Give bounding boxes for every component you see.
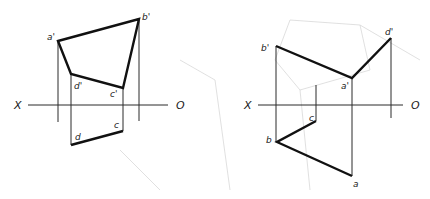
- label-d-prime: d': [385, 27, 393, 37]
- left-axis-o-label: O: [176, 99, 185, 112]
- projection-diagram: X O a' b' d' c' d c X O b' a' d' c: [0, 0, 430, 199]
- right-axis-o-label: O: [411, 99, 420, 112]
- label-a-prime: a': [341, 81, 349, 91]
- right-top-view-polyline: [277, 121, 352, 176]
- label-c-prime: c': [110, 89, 117, 99]
- label-b-prime: b': [261, 43, 269, 53]
- label-d-prime: d': [74, 81, 82, 91]
- label-c: c: [114, 120, 119, 130]
- right-axis-x-label: X: [243, 99, 252, 112]
- right-front-view-polyline: [276, 38, 391, 78]
- label-a-prime: a': [47, 32, 55, 42]
- label-b-prime: b': [142, 12, 150, 22]
- label-c: c: [309, 113, 314, 123]
- left-diagram: X O a' b' d' c' d c: [13, 12, 185, 145]
- left-axis-x-label: X: [13, 99, 22, 112]
- label-b: b: [266, 135, 272, 145]
- label-d: d: [75, 132, 81, 142]
- right-diagram: X O b' a' d' c b a: [243, 27, 420, 189]
- left-front-view-polygon: [58, 19, 139, 88]
- label-a: a: [353, 179, 359, 189]
